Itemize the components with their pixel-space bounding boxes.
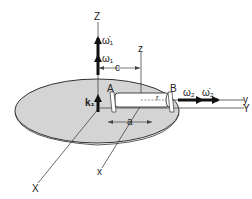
label-Y-axis: Y — [243, 104, 250, 114]
label-omega1: ω₁ — [102, 54, 113, 64]
label-Z-axis: Z — [94, 12, 100, 22]
label-dim-a: a — [127, 117, 133, 127]
label-z-axis: z — [138, 44, 143, 54]
label-dim-c: c — [115, 63, 120, 73]
label-omega1-dot: ω̇₁ — [102, 36, 113, 46]
label-X-axis: X — [32, 184, 39, 194]
label-point-A: A — [107, 84, 114, 94]
label-x-axis: x — [97, 167, 102, 177]
label-radius-r: r — [156, 94, 159, 102]
label-k1: k₁ — [85, 98, 95, 108]
label-omega2: ω₂ — [183, 88, 195, 98]
diagram-canvas — [0, 0, 252, 199]
label-omega2-dot: ω̇₂ — [202, 88, 214, 98]
label-point-B: B — [170, 84, 177, 94]
